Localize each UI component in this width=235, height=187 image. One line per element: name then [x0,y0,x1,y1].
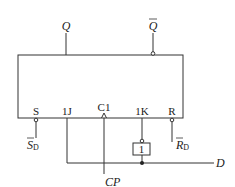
clock-triangle-icon [102,113,107,118]
s-pin-label: S [33,105,39,117]
q-label: Q [62,19,71,33]
rd-label: RD [175,138,189,152]
q-bar-inversion-bubble [151,52,155,56]
j-pin-label: 1J [62,105,73,117]
d-label: D [215,156,225,170]
rd-inversion-bubble [170,118,174,122]
cp-label: CP [105,175,121,187]
junction-dot [140,161,144,165]
r-pin-label: R [168,105,176,117]
k-pin-label: 1K [135,105,149,117]
clock-pin-label: C1 [98,101,111,113]
jk-flip-flop-diagram: Q Q S 1J C1 1K R 1 SD RD CP D [0,0,235,187]
q-bar-label: Q [149,19,158,33]
inverter-label: 1 [139,143,145,155]
sd-inversion-bubble [34,118,38,122]
sd-label: SD [27,138,39,152]
